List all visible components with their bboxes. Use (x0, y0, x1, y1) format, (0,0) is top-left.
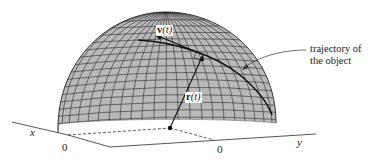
base-dashed-lines (68, 128, 214, 140)
diagram-graphic (0, 0, 374, 160)
x-axis-label: x (30, 127, 35, 138)
velocity-label: v(t) (156, 25, 173, 36)
hemisphere-diagram: v(t) r(t) trajectory of the object x 0 0… (0, 0, 374, 160)
origin-point (168, 126, 172, 130)
annotation-line-1: trajectory of (310, 43, 362, 55)
y-axis-label: y (297, 137, 302, 148)
velocity-arg: (t) (162, 24, 172, 35)
trajectory-annotation: trajectory of the object (310, 43, 362, 67)
position-label: r(t) (185, 92, 202, 103)
y-zero-label: 0 (217, 144, 223, 155)
x-zero-label: 0 (62, 142, 68, 153)
position-arg: (t) (191, 91, 201, 102)
annotation-line-2: the object (310, 55, 362, 67)
